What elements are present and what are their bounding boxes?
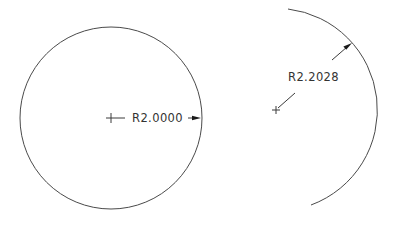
left-circle-group: R2.0000 (20, 27, 202, 209)
drawing-canvas: R2.0000 R2.2028 (0, 0, 394, 225)
right-arc-group: R2.2028 (272, 9, 377, 205)
right-arc[interactable] (288, 9, 377, 205)
right-dimension-leader-outer (332, 47, 347, 60)
right-radius-dimension-label[interactable]: R2.2028 (288, 70, 339, 84)
right-dimension-leader-inner (278, 93, 295, 108)
left-radius-dimension-label[interactable]: R2.0000 (132, 111, 183, 125)
left-dimension-arrowhead-icon (192, 116, 201, 120)
